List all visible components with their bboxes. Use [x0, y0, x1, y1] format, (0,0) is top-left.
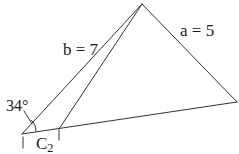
side-b-label: b = 7: [63, 40, 99, 59]
side-a-line-right: [142, 4, 237, 102]
angle-label: 34°: [6, 97, 28, 114]
side-a-line-c2: [59, 4, 142, 129]
triangle-diagram: b = 7 a = 5 34° C2: [0, 0, 239, 154]
vertex-c2-label: C2: [36, 134, 53, 154]
side-a-label: a = 5: [180, 21, 214, 40]
base-line: [22, 102, 237, 134]
side-b-line: [22, 4, 142, 134]
